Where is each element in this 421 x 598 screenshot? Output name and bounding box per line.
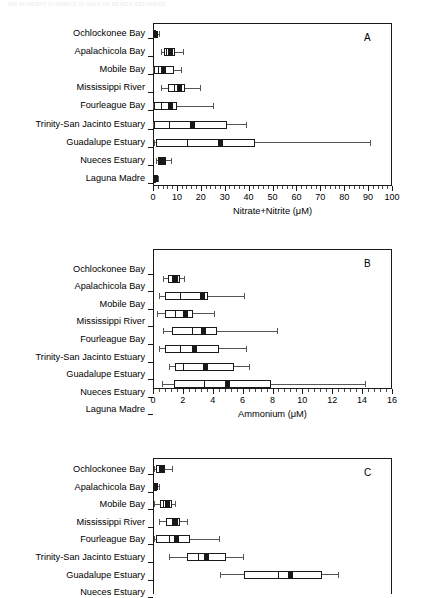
x-tick-label: 40 xyxy=(244,193,254,202)
x-tick-minor xyxy=(215,186,216,189)
mean-marker xyxy=(203,363,208,370)
x-tick-minor xyxy=(172,186,173,189)
mean-marker xyxy=(190,121,195,128)
x-tick-label: 4 xyxy=(210,396,215,405)
x-tick-minor xyxy=(330,186,331,189)
category-label: Mississippi River xyxy=(77,84,145,93)
x-tick-minor xyxy=(306,186,307,189)
x-tick-major xyxy=(243,389,244,394)
y-tick xyxy=(148,110,153,111)
quartile-box xyxy=(154,102,176,110)
category-label: Ochlockonee Bay xyxy=(73,265,145,274)
x-tick-label: 0 xyxy=(150,193,155,202)
y-tick xyxy=(148,183,153,184)
whisker-cap-high xyxy=(246,122,247,128)
y-tick xyxy=(148,509,153,510)
x-tick-minor xyxy=(287,186,288,189)
x-tick-minor xyxy=(316,186,317,189)
median-line xyxy=(175,310,176,318)
y-tick xyxy=(148,527,153,528)
x-tick-minor xyxy=(277,186,278,189)
whisker-cap-low xyxy=(162,381,163,387)
x-tick-minor xyxy=(239,186,240,189)
quartile-box xyxy=(244,571,322,579)
x-tick-major xyxy=(201,186,202,191)
whisker-cap-high xyxy=(246,346,247,352)
mean-marker xyxy=(168,103,173,110)
panel-letter: B xyxy=(364,259,371,269)
x-tick-major xyxy=(344,186,345,191)
x-tick-minor xyxy=(201,389,202,392)
median-line xyxy=(192,327,193,335)
x-tick-minor xyxy=(220,186,221,189)
whisker-cap-high xyxy=(175,501,176,507)
x-tick-minor xyxy=(311,186,312,189)
mean-marker xyxy=(153,31,158,38)
x-tick-minor xyxy=(159,389,160,392)
whisker-cap-high xyxy=(213,103,214,109)
whisker-cap-high xyxy=(365,381,366,387)
x-tick-minor xyxy=(378,186,379,189)
x-tick-minor xyxy=(350,389,351,392)
whisker-cap-high xyxy=(338,572,339,578)
category-label: Guadalupe Estuary xyxy=(66,571,145,580)
category-label: Trinity-San Jacinto Estuary xyxy=(36,120,145,129)
category-label: Fourleague Bay xyxy=(80,335,145,344)
x-axis-title: Ammonium (μM) xyxy=(238,410,307,419)
median-line xyxy=(204,380,205,388)
x-tick-minor xyxy=(255,389,256,392)
y-tick xyxy=(148,414,153,415)
category-label: Fourleague Bay xyxy=(80,536,145,545)
x-tick-label: 10 xyxy=(172,193,182,202)
category-label: Trinity-San Jacinto Estuary xyxy=(36,353,145,362)
x-tick-minor xyxy=(207,389,208,392)
x-tick-minor xyxy=(261,389,262,392)
category-label: Apalachicola Bay xyxy=(75,282,145,291)
x-tick-minor xyxy=(374,389,375,392)
x-tick-minor xyxy=(359,186,360,189)
y-tick xyxy=(148,56,153,57)
y-tick xyxy=(148,129,153,130)
mean-marker xyxy=(160,157,165,164)
mean-marker xyxy=(173,275,178,282)
mean-marker xyxy=(153,175,158,182)
whisker-cap-low xyxy=(154,140,155,146)
whisker-cap-low xyxy=(169,364,170,370)
median-line xyxy=(163,500,164,508)
x-tick-label: 16 xyxy=(387,396,397,405)
y-tick xyxy=(148,344,153,345)
median-line xyxy=(198,553,199,561)
x-tick-minor xyxy=(356,389,357,392)
x-tick-minor xyxy=(219,389,220,392)
x-tick-major xyxy=(296,186,297,191)
x-tick-minor xyxy=(229,186,230,189)
x-tick-major xyxy=(320,186,321,191)
median-line xyxy=(180,345,181,353)
mean-marker xyxy=(165,501,170,508)
panel-letter: A xyxy=(364,33,371,43)
x-tick-label: 50 xyxy=(267,193,277,202)
x-tick-major xyxy=(153,389,154,394)
x-tick-major xyxy=(368,186,369,191)
whisker-cap-low xyxy=(154,501,155,507)
x-tick-label: 80 xyxy=(339,193,349,202)
x-tick-minor xyxy=(380,389,381,392)
x-tick-minor xyxy=(320,389,321,392)
x-tick-major xyxy=(273,389,274,394)
x-tick-minor xyxy=(253,186,254,189)
x-tick-major xyxy=(302,389,303,394)
x-tick-minor xyxy=(314,389,315,392)
x-tick-label: 10 xyxy=(297,396,307,405)
median-line xyxy=(278,571,279,579)
mean-marker xyxy=(153,483,158,490)
whisker-cap-low xyxy=(156,158,157,164)
y-tick xyxy=(148,309,153,310)
x-tick-major xyxy=(362,389,363,394)
x-tick-minor xyxy=(373,186,374,189)
mean-marker xyxy=(200,293,205,300)
median-line xyxy=(161,102,162,110)
x-tick-minor xyxy=(158,186,159,189)
x-tick-minor xyxy=(225,389,226,392)
y-tick xyxy=(148,38,153,39)
whisker-cap-high xyxy=(243,554,244,560)
